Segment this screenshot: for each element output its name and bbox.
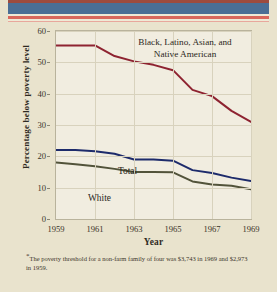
y-tick-mark xyxy=(47,156,50,157)
y-tick-label: 10 xyxy=(37,183,46,193)
gridline-horizontal xyxy=(56,125,251,126)
band-red-thin xyxy=(8,21,269,22)
gridline-horizontal xyxy=(56,188,251,189)
gridline-horizontal xyxy=(56,156,251,157)
x-tick-label: 1967 xyxy=(203,224,220,234)
x-tick-label: 1959 xyxy=(47,224,64,234)
y-tick-mark xyxy=(47,62,50,63)
footnote-text: The poverty threshold for a non-farm fam… xyxy=(26,255,248,271)
chart-footnote: *The poverty threshold for a non-farm fa… xyxy=(26,252,252,272)
gridline-horizontal xyxy=(56,94,251,95)
annotation-minority-line2: Native American xyxy=(118,49,252,61)
y-tick-label: 40 xyxy=(37,89,46,99)
textbook-page: Percentage below poverty level 010203040… xyxy=(0,0,277,292)
x-axis-ticks: 195919611963196519671969 xyxy=(55,224,252,238)
x-axis-label: Year xyxy=(55,237,252,247)
annotation-minority: Black, Latino, Asian, and Native America… xyxy=(118,37,252,60)
y-tick-label: 20 xyxy=(37,151,46,161)
gridline-horizontal xyxy=(56,31,251,32)
y-tick-mark xyxy=(47,125,50,126)
annotation-white: White xyxy=(88,193,111,203)
y-tick-mark xyxy=(47,94,50,95)
y-tick-mark xyxy=(47,31,50,32)
x-tick-label: 1963 xyxy=(125,224,142,234)
y-tick-label: 30 xyxy=(37,120,46,130)
gridline-vertical xyxy=(95,31,96,219)
band-blue xyxy=(8,3,269,14)
y-tick-mark xyxy=(47,219,50,220)
y-tick-label: 50 xyxy=(37,57,46,67)
annotation-total: Total xyxy=(118,166,137,176)
header-bands xyxy=(8,0,269,22)
annotation-minority-line1: Black, Latino, Asian, and xyxy=(118,37,252,49)
x-tick-label: 1965 xyxy=(164,224,181,234)
y-tick-mark xyxy=(47,188,50,189)
gridline-horizontal xyxy=(56,62,251,63)
x-tick-label: 1961 xyxy=(86,224,103,234)
x-tick-label: 1969 xyxy=(242,224,259,234)
y-axis-ticks: 0102030405060 xyxy=(0,30,50,220)
y-tick-label: 0 xyxy=(42,214,46,224)
y-tick-label: 60 xyxy=(37,26,46,36)
poverty-line-chart: Percentage below poverty level 010203040… xyxy=(0,24,277,248)
